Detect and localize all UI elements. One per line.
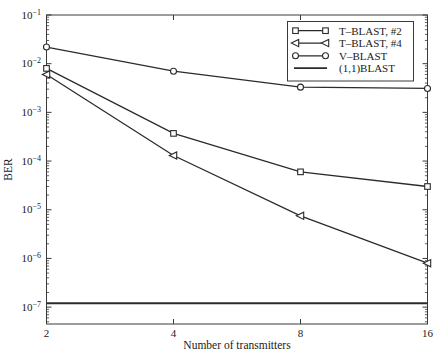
circle-marker	[44, 44, 50, 50]
x-axis-label: Number of transmitters	[183, 339, 291, 351]
square-marker	[44, 66, 50, 72]
y-tick-label: 10−4	[21, 154, 41, 167]
y-tick-label: 10−3	[21, 105, 41, 118]
ber-figure: 2481610−110−210−310−410−510−610−7 Number…	[0, 0, 441, 358]
legend-label-11blast: (1,1)BLAST	[339, 62, 395, 75]
y-tick-label: 10−5	[21, 202, 41, 215]
square-marker	[298, 169, 304, 175]
x-tick-label: 2	[44, 327, 50, 339]
data-series	[42, 44, 430, 303]
x-tick-label: 8	[298, 327, 304, 339]
legend-label-vblast: V–BLAST	[339, 50, 388, 62]
square-marker	[323, 28, 329, 34]
square-marker	[171, 131, 177, 137]
square-marker	[293, 28, 299, 34]
legend-label-tblast2: T–BLAST, #2	[339, 25, 402, 37]
legend-label-tblast4: T–BLAST, #4	[339, 37, 402, 49]
y-tick-label: 10−7	[21, 300, 41, 313]
circle-marker	[323, 53, 329, 59]
x-tick-label: 16	[422, 327, 434, 339]
y-tick-label: 10−1	[21, 8, 41, 21]
triangle-left-marker	[296, 212, 303, 219]
legend: T–BLAST, #2 T–BLAST, #4 V–BLAST (1,1)BLA…	[288, 22, 414, 82]
series-1	[42, 71, 430, 267]
circle-marker	[425, 85, 431, 91]
y-tick-label: 10−2	[21, 56, 41, 69]
y-axis-label: BER	[2, 158, 14, 181]
circle-marker	[298, 84, 304, 90]
square-marker	[425, 184, 431, 190]
circle-marker	[171, 68, 177, 74]
x-tick-label: 4	[171, 327, 177, 339]
circle-marker	[293, 53, 299, 59]
ber-chart: 2481610−110−210−310−410−510−610−7 Number…	[0, 0, 441, 358]
series-0	[44, 66, 431, 190]
y-tick-label: 10−6	[21, 251, 41, 264]
